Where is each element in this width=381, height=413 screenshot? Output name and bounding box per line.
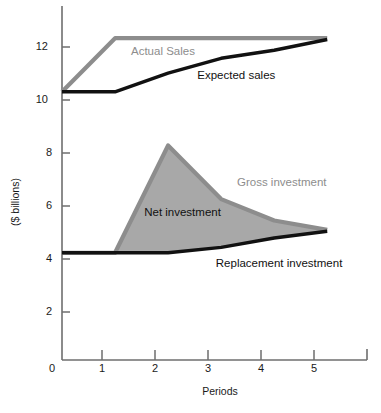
x-tick-label-3: 3 (198, 362, 218, 374)
annotation-expected-sales: Expected sales (197, 69, 275, 81)
y-tick-label-2: 2 (26, 305, 52, 317)
x-axis-ticks (102, 350, 314, 360)
annotation-replacement-investment: Replacement investment (216, 257, 343, 269)
y-tick-label-4: 4 (26, 252, 52, 264)
x-tick-label-1: 1 (92, 362, 112, 374)
y-tick-label-8: 8 (26, 146, 52, 158)
x-axis-title: Periods (185, 385, 255, 397)
annotation-actual-sales: Actual Sales (131, 45, 195, 57)
x-tick-label-4: 4 (251, 362, 271, 374)
y-tick-label-10: 10 (22, 93, 48, 105)
y-tick-label-6: 6 (26, 199, 52, 211)
x-tick-label-2: 2 (145, 362, 165, 374)
x-tick-label-5: 5 (304, 362, 324, 374)
annotation-gross-investment: Gross investment (237, 176, 326, 188)
investment-accelerator-chart: 2 4 6 8 10 12 0 1 2 3 4 5 ($ billions) P… (0, 0, 381, 413)
y-axis-title: ($ billions) (9, 167, 21, 237)
annotation-net-investment: Net investment (144, 206, 221, 218)
x-tick-label-0: 0 (42, 362, 62, 374)
y-tick-label-12: 12 (22, 40, 48, 52)
